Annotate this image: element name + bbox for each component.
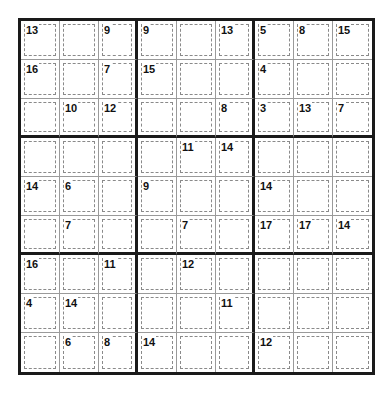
sudoku-cell-r3c7[interactable]	[294, 138, 333, 177]
sudoku-cell-r2c7[interactable]: 13	[294, 99, 333, 138]
sudoku-cell-r0c3[interactable]: 9	[138, 21, 177, 60]
sudoku-cell-r8c2[interactable]: 8	[99, 333, 138, 372]
sudoku-cell-r4c0[interactable]: 14	[21, 177, 60, 216]
sudoku-cell-r2c3[interactable]	[138, 99, 177, 138]
sudoku-cell-r7c3[interactable]	[138, 294, 177, 333]
sudoku-cell-r2c0[interactable]	[21, 99, 60, 138]
cage-outline	[297, 297, 329, 329]
sudoku-cell-r4c6[interactable]: 14	[255, 177, 294, 216]
sudoku-cell-r4c4[interactable]	[177, 177, 216, 216]
sudoku-cell-r3c1[interactable]	[60, 138, 99, 177]
sudoku-cell-r1c7[interactable]	[294, 60, 333, 99]
killer-sudoku-grid: 1399135815167154101283137111414691477171…	[18, 18, 375, 375]
sudoku-cell-r8c7[interactable]	[294, 333, 333, 372]
sudoku-cell-r7c4[interactable]	[177, 294, 216, 333]
sudoku-cell-r1c3[interactable]: 15	[138, 60, 177, 99]
sudoku-cell-r1c2[interactable]: 7	[99, 60, 138, 99]
cage-sum-clue: 14	[64, 297, 78, 309]
sudoku-cell-r6c7[interactable]	[294, 255, 333, 294]
sudoku-cell-r1c6[interactable]: 4	[255, 60, 294, 99]
sudoku-cell-r2c5[interactable]: 8	[216, 99, 255, 138]
sudoku-cell-r0c8[interactable]: 15	[333, 21, 372, 60]
sudoku-cell-r3c8[interactable]	[333, 138, 372, 177]
cage-sum-clue: 8	[298, 24, 306, 36]
sudoku-cell-r2c2[interactable]: 12	[99, 99, 138, 138]
cage-sum-clue: 15	[337, 24, 351, 36]
sudoku-cell-r5c6[interactable]: 17	[255, 216, 294, 255]
sudoku-cell-r6c6[interactable]	[255, 255, 294, 294]
sudoku-cell-r7c5[interactable]: 11	[216, 294, 255, 333]
sudoku-cell-r4c3[interactable]: 9	[138, 177, 177, 216]
sudoku-cell-r5c5[interactable]	[216, 216, 255, 255]
sudoku-cell-r5c8[interactable]: 14	[333, 216, 372, 255]
sudoku-cell-r8c6[interactable]: 12	[255, 333, 294, 372]
sudoku-cell-r3c2[interactable]	[99, 138, 138, 177]
sudoku-cell-r6c8[interactable]	[333, 255, 372, 294]
sudoku-cell-r8c8[interactable]	[333, 333, 372, 372]
sudoku-cell-r0c2[interactable]: 9	[99, 21, 138, 60]
sudoku-cell-r2c1[interactable]: 10	[60, 99, 99, 138]
sudoku-cell-r1c5[interactable]	[216, 60, 255, 99]
sudoku-cell-r4c8[interactable]	[333, 177, 372, 216]
cage-sum-clue: 13	[25, 24, 39, 36]
sudoku-cell-r5c2[interactable]	[99, 216, 138, 255]
sudoku-cell-r8c1[interactable]: 6	[60, 333, 99, 372]
cage-outline	[219, 180, 249, 212]
sudoku-cell-r5c3[interactable]	[138, 216, 177, 255]
sudoku-cell-r5c0[interactable]	[21, 216, 60, 255]
sudoku-cell-r4c1[interactable]: 6	[60, 177, 99, 216]
cage-sum-clue: 14	[25, 180, 39, 192]
sudoku-cell-r5c1[interactable]: 7	[60, 216, 99, 255]
sudoku-cell-r7c2[interactable]	[99, 294, 138, 333]
sudoku-cell-r6c4[interactable]: 12	[177, 255, 216, 294]
sudoku-cell-r7c1[interactable]: 14	[60, 294, 99, 333]
sudoku-cell-r4c7[interactable]	[294, 177, 333, 216]
sudoku-cell-r6c5[interactable]	[216, 255, 255, 294]
sudoku-cell-r4c2[interactable]	[99, 177, 138, 216]
sudoku-cell-r5c4[interactable]: 7	[177, 216, 216, 255]
sudoku-cell-r6c1[interactable]	[60, 255, 99, 294]
cage-outline	[24, 102, 56, 132]
cage-outline	[336, 63, 369, 95]
sudoku-cell-r0c0[interactable]: 13	[21, 21, 60, 60]
sudoku-cell-r3c0[interactable]	[21, 138, 60, 177]
sudoku-cell-r8c4[interactable]	[177, 333, 216, 372]
sudoku-cell-r0c4[interactable]	[177, 21, 216, 60]
sudoku-cell-r2c4[interactable]	[177, 99, 216, 138]
sudoku-cell-r8c5[interactable]	[216, 333, 255, 372]
sudoku-cell-r1c0[interactable]: 16	[21, 60, 60, 99]
sudoku-cell-r8c3[interactable]: 14	[138, 333, 177, 372]
cage-sum-clue: 11	[181, 141, 195, 153]
sudoku-cell-r3c5[interactable]: 14	[216, 138, 255, 177]
sudoku-cell-r7c7[interactable]	[294, 294, 333, 333]
sudoku-cell-r7c0[interactable]: 4	[21, 294, 60, 333]
sudoku-cell-r4c5[interactable]	[216, 177, 255, 216]
cage-outline	[63, 258, 95, 290]
sudoku-cell-r3c4[interactable]: 11	[177, 138, 216, 177]
sudoku-cell-r1c8[interactable]	[333, 60, 372, 99]
cage-outline	[63, 141, 95, 173]
cage-sum-clue: 7	[181, 219, 189, 231]
cage-outline	[24, 336, 56, 369]
sudoku-cell-r0c5[interactable]: 13	[216, 21, 255, 60]
sudoku-cell-r2c6[interactable]: 3	[255, 99, 294, 138]
sudoku-cell-r3c3[interactable]	[138, 138, 177, 177]
sudoku-cell-r3c6[interactable]	[255, 138, 294, 177]
sudoku-cell-r6c0[interactable]: 16	[21, 255, 60, 294]
sudoku-cell-r5c7[interactable]: 17	[294, 216, 333, 255]
sudoku-cell-r0c6[interactable]: 5	[255, 21, 294, 60]
sudoku-cell-r2c8[interactable]: 7	[333, 99, 372, 138]
sudoku-cell-r7c8[interactable]	[333, 294, 372, 333]
cage-sum-clue: 11	[220, 297, 234, 309]
sudoku-cell-r1c4[interactable]	[177, 60, 216, 99]
sudoku-cell-r1c1[interactable]	[60, 60, 99, 99]
cage-outline	[180, 180, 212, 212]
sudoku-cell-r7c6[interactable]	[255, 294, 294, 333]
sudoku-cell-r6c3[interactable]	[138, 255, 177, 294]
sudoku-cell-r8c0[interactable]	[21, 333, 60, 372]
cage-outline	[297, 180, 329, 212]
sudoku-cell-r0c1[interactable]	[60, 21, 99, 60]
sudoku-cell-r0c7[interactable]: 8	[294, 21, 333, 60]
cage-outline	[297, 258, 329, 290]
sudoku-cell-r6c2[interactable]: 11	[99, 255, 138, 294]
